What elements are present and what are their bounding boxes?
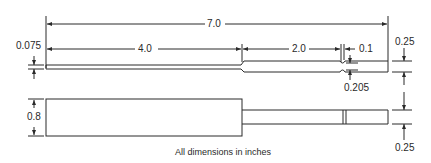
- body-height-label: 0.8: [26, 112, 42, 122]
- shank-thickness-leader: [346, 55, 358, 80]
- shank-thickness-label: 0.205: [343, 83, 370, 93]
- top-view-outline: [46, 61, 388, 72]
- thin-thickness-label: 0.075: [15, 41, 42, 51]
- side-view-outline: [46, 99, 388, 136]
- bottom-offset-label: 0.25: [394, 143, 415, 153]
- top-offset-dimension: [392, 48, 412, 85]
- top-offset-label: 0.25: [394, 37, 415, 47]
- units-note: All dimensions in inches: [175, 147, 271, 157]
- shank-length-label: 2.0: [291, 44, 307, 54]
- bottom-offset-dimension: [392, 92, 412, 140]
- thin-thickness-dimension: [28, 56, 44, 79]
- thin-section-length-label: 4.0: [137, 44, 153, 54]
- notch-offset-label: 0.1: [358, 44, 374, 54]
- overall-length-label: 7.0: [206, 19, 222, 29]
